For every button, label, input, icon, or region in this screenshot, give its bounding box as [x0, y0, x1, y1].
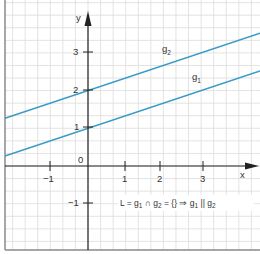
y-tick-label: −1 — [68, 197, 79, 208]
x-tick-label: 2 — [157, 173, 162, 184]
y-tick-label: 3 — [73, 46, 78, 57]
x-tick-label: 3 — [200, 173, 205, 184]
y-tick-label: 1 — [74, 121, 79, 132]
origin-label: 0 — [78, 154, 83, 165]
solution-annotation: L = g1 ∩ g2 = {} ⇒ g1 || g2 — [120, 198, 216, 209]
x-tick-label: −1 — [43, 173, 54, 184]
coordinate-chart: −1 1 2 3 x 3 2 1 −1 0 y g2 g1 L = g1 ∩ g… — [0, 0, 260, 254]
chart-frame — [5, 0, 260, 250]
y-tick-label: 2 — [73, 84, 78, 95]
x-axis-label: x — [240, 169, 245, 180]
y-axis-label: y — [76, 12, 81, 23]
x-tick-label: 1 — [122, 173, 127, 184]
